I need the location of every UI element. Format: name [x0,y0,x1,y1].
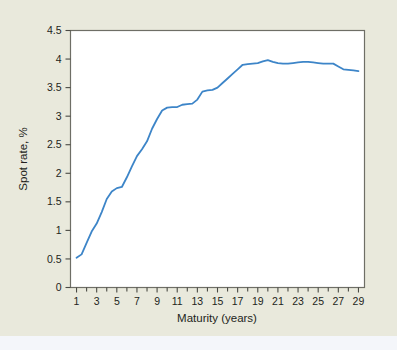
y-tick-label: 4 [56,53,62,65]
figure-background: 00.511.522.533.544.5 1357911131517192123… [0,0,397,350]
y-tick-label: 3.5 [47,81,62,93]
x-tick-label: 25 [312,295,324,307]
x-tick-label: 7 [134,295,140,307]
x-tick-label: 1 [74,295,80,307]
y-tick-label: 1.5 [47,195,62,207]
y-tick-label: 1 [56,224,62,236]
x-tick-label: 21 [272,295,284,307]
y-tick-label: 4.5 [47,24,62,36]
x-axis-title: Maturity (years) [177,312,257,324]
y-axis-ticks: 00.511.522.533.544.5 [47,24,71,293]
y-tick-label: 0.5 [47,253,62,265]
x-tick-label: 5 [114,295,120,307]
x-axis-ticks: 1357911131517192123252729 [74,288,365,307]
x-tick-label: 27 [332,295,344,307]
x-tick-label: 23 [292,295,304,307]
x-tick-label: 11 [172,295,183,307]
x-tick-label: 19 [252,295,264,307]
y-axis-title: Spot rate, % [17,127,29,190]
x-tick-label: 15 [212,295,224,307]
y-tick-label: 2 [56,167,62,179]
x-tick-label: 13 [192,295,204,307]
y-tick-label: 0 [56,281,62,293]
x-tick-label: 3 [94,295,100,307]
x-tick-label: 17 [232,295,244,307]
x-tick-label: 29 [353,295,365,307]
plot-area-background [71,31,365,288]
bottom-white-strip [0,336,397,350]
y-tick-label: 2.5 [47,138,62,150]
x-tick-label: 9 [154,295,160,307]
y-tick-label: 3 [56,110,62,122]
spot-rate-chart: 00.511.522.533.544.5 1357911131517192123… [0,0,397,350]
